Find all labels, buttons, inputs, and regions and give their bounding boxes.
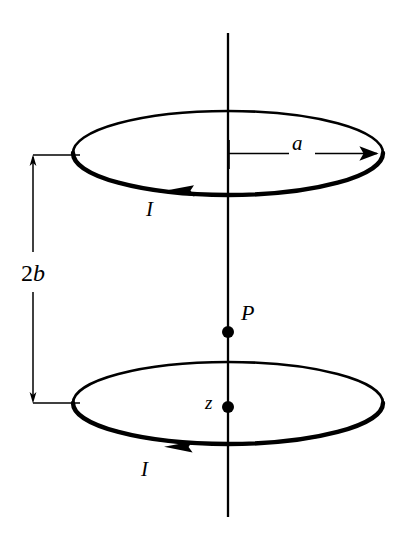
figure-canvas [0,0,405,535]
field-point-P-marker [222,326,234,338]
separation-symbol: b [33,260,45,286]
axis-origin-z-marker [222,401,234,413]
field-point-label: P [241,302,254,324]
separation-label: 2b [21,261,45,285]
radius-label: a [292,133,303,154]
physics-figure: a 2b P z I I [0,0,405,535]
current-label-top: I [146,199,153,220]
current-label-bottom: I [141,459,148,480]
separation-number: 2 [21,260,33,286]
axis-label: z [205,393,212,412]
